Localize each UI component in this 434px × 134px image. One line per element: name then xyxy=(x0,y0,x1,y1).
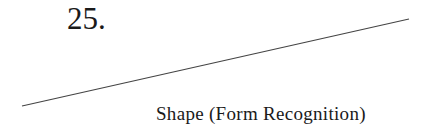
figure-caption: Shape (Form Recognition) xyxy=(156,104,366,123)
slanted-line xyxy=(22,19,409,106)
